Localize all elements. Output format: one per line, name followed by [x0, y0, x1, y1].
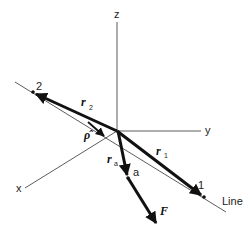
r1-vector-label: r	[156, 144, 161, 158]
x-axis	[25, 131, 117, 188]
rho-hat-label: ρ̂	[83, 128, 93, 142]
ra-vector-label: r	[107, 152, 112, 166]
ra-subscript: a	[114, 160, 118, 167]
point-2	[31, 90, 35, 94]
moment-about-line-diagram: z y x Line 2 1 a r 2 r 1 r a F ρ̂	[0, 0, 251, 233]
point-a-label: a	[133, 166, 140, 178]
force-vector-label: F	[159, 204, 168, 218]
point-2-label: 2	[36, 80, 42, 92]
point-1-label: 1	[198, 179, 204, 191]
point-1	[202, 195, 206, 199]
line-label: Line	[222, 195, 243, 207]
y-axis-label: y	[205, 124, 211, 136]
r2-vector-label: r	[81, 95, 86, 109]
r1-subscript: 1	[164, 152, 168, 159]
r1-vector-arrow	[117, 131, 201, 195]
z-axis-label: z	[114, 8, 120, 20]
vectors: r 2 r 1 r a F ρ̂	[36, 94, 201, 223]
r2-vector-arrow	[36, 94, 117, 131]
r2-subscript: 2	[89, 104, 93, 111]
x-axis-label: x	[16, 182, 22, 194]
force-vector-arrow	[128, 178, 156, 223]
